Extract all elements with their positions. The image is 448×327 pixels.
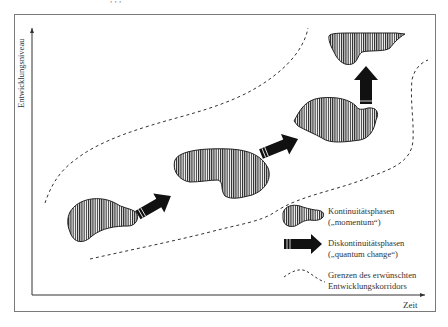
legend-continuity-subtitle: („momentum“) <box>328 217 394 228</box>
legend-item-corridor: Grenzen des erwünschten Entwicklungskorr… <box>328 270 416 292</box>
legend-continuity-title: Kontinuitätsphasen <box>328 206 394 217</box>
continuity-phase-3 <box>294 97 378 142</box>
continuity-phase-2 <box>174 149 269 198</box>
diagram-canvas: , , , <box>0 0 448 327</box>
legend-item-discontinuity: Diskontinuitätsphasen („quantum change“) <box>328 238 404 260</box>
discontinuity-arrow-3 <box>354 66 378 104</box>
legend-corridor-title: Grenzen des erwünschten <box>328 270 416 281</box>
legend-discontinuity-title: Diskontinuitätsphasen <box>328 238 404 249</box>
discontinuity-arrow-1 <box>133 186 177 224</box>
legend-symbol-blob <box>283 205 324 226</box>
continuity-phase-1 <box>68 199 138 242</box>
continuity-phase-4 <box>329 33 405 65</box>
legend-corridor-subtitle: Entwicklungskorridors <box>328 281 416 292</box>
legend-symbol-arrow <box>284 234 322 254</box>
legend-discontinuity-subtitle: („quantum change“) <box>328 249 404 260</box>
legend-symbol-dashed-line <box>284 270 325 282</box>
legend-item-continuity: Kontinuitätsphasen („momentum“) <box>328 206 394 228</box>
discontinuity-arrow-2 <box>257 129 302 164</box>
y-axis-label: Entwicklungsniveau <box>16 39 26 108</box>
x-axis-label: Zeit <box>403 300 418 310</box>
